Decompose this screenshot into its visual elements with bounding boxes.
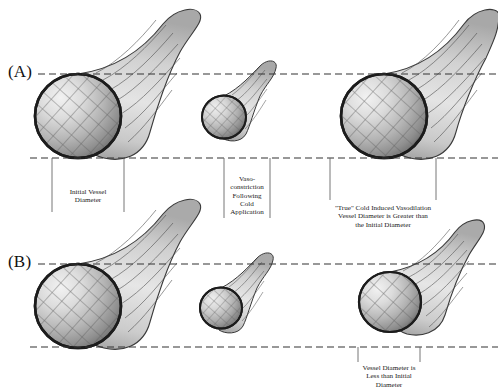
vessel-b-partial [357,220,485,336]
figure-canvas: (A) (B) Initial Vessel Diameter Vaso- co… [0,0,498,392]
panel-b-ticks [358,347,420,362]
vessel-b-initial [33,199,201,352]
vessel-a-dilated [339,9,498,162]
vessel-a-initial [33,9,201,162]
caption-vasoconstriction: Vaso- constriction Following Cold Applic… [224,175,270,216]
panel-a-label: (A) [8,62,32,82]
caption-initial-diameter: Initial Vessel Diameter [52,188,124,205]
caption-true-civd: "True" Cold Induced Vasodilation Vessel … [330,204,436,229]
panel-b-label: (B) [8,252,31,272]
caption-less-than-initial: Vessel Diameter is Less than Initial Dia… [348,364,430,389]
vessel-a-constricted [200,61,276,143]
vessel-b-constricted [198,253,273,333]
